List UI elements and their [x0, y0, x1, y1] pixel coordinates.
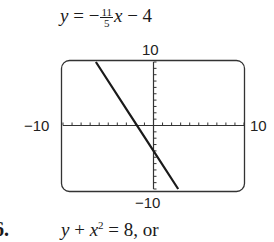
axes [63, 62, 244, 189]
problem-number: 6. [0, 218, 9, 241]
problem-x: x [90, 219, 98, 240]
problem-rest: = 8, or [104, 219, 159, 240]
next-problem-equation: y + x2 = 8, or [61, 219, 159, 241]
problem-plus: + [69, 219, 89, 240]
graph-window [0, 0, 274, 242]
